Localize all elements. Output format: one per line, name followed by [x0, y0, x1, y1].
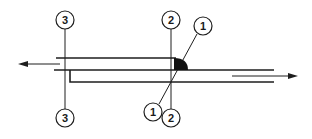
callout-label: 2 [168, 14, 174, 26]
callout-label: 2 [168, 112, 174, 124]
callout-1-top: 1 [194, 17, 212, 35]
lap-joint-diagram: 3 3 2 2 1 1 [0, 0, 312, 139]
callout-2-top: 2 [162, 11, 180, 29]
callout-3-bottom: 3 [56, 109, 74, 127]
arrow-left-icon [18, 61, 28, 67]
callout-3-top: 3 [56, 11, 74, 29]
weld-fillet [174, 58, 188, 70]
callout-2-bottom: 2 [162, 109, 180, 127]
callout-1-bottom: 1 [144, 103, 162, 121]
callout-label: 3 [62, 112, 68, 124]
arrow-right-icon [288, 73, 298, 79]
callout-label: 1 [150, 106, 156, 118]
callout-label: 3 [62, 14, 68, 26]
callout-label: 1 [200, 20, 206, 32]
